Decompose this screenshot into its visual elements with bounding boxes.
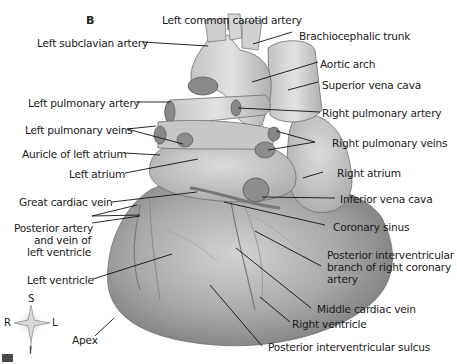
compass-left-label: L — [52, 317, 57, 329]
label-left-pulmonary-veins: Left pulmonary veins — [25, 124, 133, 136]
label-right-pulmonary-veins: Right pulmonary veins — [332, 137, 447, 149]
label-coronary-sinus: Coronary sinus — [333, 221, 409, 233]
label-middle-cardiac-vein: Middle cardiac vein — [317, 303, 416, 315]
label-right-ventricle: Right ventricle — [292, 318, 367, 330]
label-posterior-interventricular-sulcus: Posterior interventricular sulcus — [268, 341, 430, 353]
label-left-ventricle: Left ventricle — [27, 274, 94, 286]
label-left-atrium: Left atrium — [69, 168, 125, 180]
panel-letter: B — [86, 14, 94, 27]
label-auricle-of-left-atrium: Auricle of left atrium — [22, 148, 127, 160]
label-left-subclavian-artery: Left subclavian artery — [37, 37, 148, 49]
label-posterior-interventricular-branch-line-3: artery — [327, 273, 358, 285]
label-apex: Apex — [72, 334, 98, 346]
label-left-pulmonary-artery: Left pulmonary artery — [28, 97, 140, 109]
label-great-cardiac-vein: Great cardiac vein — [19, 196, 113, 208]
label-right-pulmonary-artery: Right pulmonary artery — [322, 107, 441, 119]
compass-inferior-label: I — [29, 345, 32, 357]
label-left-common-carotid-artery: Left common carotid artery — [162, 14, 302, 26]
label-right-atrium: Right atrium — [337, 167, 401, 179]
label-posterior-artery-line-1: Posterior artery — [14, 222, 91, 234]
label-posterior-interventricular-branch-line-1: Posterior interventricular — [327, 249, 454, 261]
label-brachiocephalic-trunk: Brachiocephalic trunk — [299, 30, 410, 42]
label-aortic-arch: Aortic arch — [320, 58, 375, 70]
label-posterior-artery-line-2: and vein of — [14, 234, 91, 246]
corner-marker — [2, 354, 13, 362]
heart-posterior-diagram: B Left common carotid artery Left subcla… — [0, 0, 457, 364]
label-posterior-interventricular-branch-line-2: branch of right coronary — [327, 261, 451, 273]
label-posterior-artery-line-3: left ventricle — [14, 246, 91, 258]
compass-right-label: R — [4, 317, 11, 329]
compass-superior-label: S — [28, 293, 34, 305]
label-superior-vena-cava: Superior vena cava — [322, 79, 421, 91]
inferior-vena-cava-shape — [243, 178, 269, 202]
label-inferior-vena-cava: Inferior vena cava — [340, 193, 432, 205]
compass-rose-icon — [14, 305, 50, 350]
